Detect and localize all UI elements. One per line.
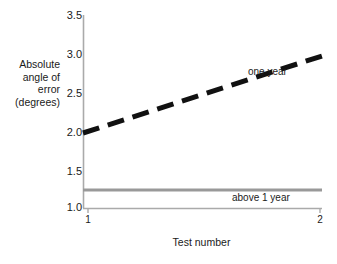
series-label-above-one-year: above 1 year (232, 192, 290, 203)
x-tick-label-1: 1 (78, 215, 98, 225)
x-axis-title: Test number (83, 236, 320, 248)
series-label-one-year: one year (248, 66, 287, 77)
plot-area (0, 0, 337, 264)
chart-figure: Absolute angle of error (degrees) 3.5 3.… (0, 0, 337, 264)
x-tick-label-2: 2 (310, 215, 330, 225)
